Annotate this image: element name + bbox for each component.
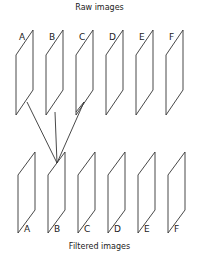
raw-frame-f	[166, 30, 183, 115]
filtered-label-f: F	[174, 224, 179, 234]
raw-frame-c	[76, 30, 93, 115]
raw-frame-b	[46, 30, 63, 115]
filtered-frame-b	[48, 152, 65, 233]
raw-label-f: F	[169, 32, 174, 42]
filtered-frame-a	[18, 152, 35, 233]
filtered-label-a: A	[24, 224, 31, 234]
connection-c-to-b	[57, 102, 84, 163]
raw-frame-e	[136, 30, 153, 115]
raw-frame-d	[106, 30, 123, 115]
filtered-label-e: E	[144, 224, 150, 234]
filtered-images-title: Filtered images	[0, 242, 199, 251]
diagram-canvas: A B C D E F A B C D E F	[0, 0, 199, 263]
raw-label-d: D	[109, 32, 116, 42]
filtered-frame-f	[168, 152, 185, 233]
connection-b-to-b	[55, 112, 57, 163]
raw-label-a: A	[19, 32, 26, 42]
filtered-label-c: C	[84, 224, 90, 234]
filtered-frame-e	[138, 152, 155, 233]
raw-label-e: E	[139, 32, 145, 42]
connection-a-to-b	[27, 102, 57, 163]
raw-frame-a	[16, 30, 33, 115]
filtered-frame-d	[108, 152, 125, 233]
filtered-label-b: B	[54, 224, 60, 234]
filtered-frame-c	[78, 152, 95, 233]
raw-label-c: C	[79, 32, 85, 42]
filtered-label-d: D	[114, 224, 121, 234]
raw-label-b: B	[49, 32, 55, 42]
